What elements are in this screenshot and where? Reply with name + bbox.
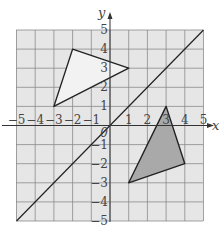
x-tick-label: −5 <box>8 113 26 127</box>
y-tick-label: 3 <box>100 61 108 75</box>
y-tick-label: −5 <box>90 214 108 228</box>
y-tick-label: 2 <box>100 80 108 94</box>
x-tick-label: 3 <box>162 113 170 127</box>
y-tick-label: 1 <box>100 99 108 113</box>
x-tick-label: 2 <box>144 113 152 127</box>
coordinate-plane: −5−4−3−2−11234554321−1−2−3−4−50 x y <box>0 0 224 228</box>
y-tick-label: 4 <box>100 42 108 56</box>
y-tick-label: −2 <box>90 157 108 171</box>
x-tick-label: 1 <box>125 113 133 127</box>
x-tick-label: 4 <box>181 113 189 127</box>
x-tick-label: −4 <box>26 113 44 127</box>
y-tick-label: 5 <box>100 23 108 37</box>
y-tick-label: −3 <box>90 176 108 190</box>
x-tick-label: −3 <box>45 113 63 127</box>
y-tick-label: −1 <box>90 138 108 152</box>
y-axis-label: y <box>97 5 106 20</box>
y-axis-arrow-icon <box>108 12 113 19</box>
x-tick-label: 5 <box>200 113 208 127</box>
x-axis-label: x <box>212 118 220 133</box>
x-tick-label: −2 <box>64 113 82 127</box>
origin-label: 0 <box>100 126 108 140</box>
y-tick-label: −4 <box>90 195 108 209</box>
x-tick-label: −1 <box>82 113 100 127</box>
